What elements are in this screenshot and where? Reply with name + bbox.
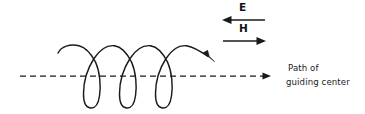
- guiding-center-caption: Path of guiding center: [286, 62, 365, 89]
- helix-loop-3: [156, 46, 187, 108]
- helix-arc-exit: [187, 46, 209, 57]
- magnetic-field-arrowhead: [257, 37, 267, 45]
- helix-loop-2: [120, 46, 151, 108]
- magnetic-field-arrow: [223, 37, 266, 45]
- caption-line-1: Path of: [286, 62, 365, 76]
- electric-field-arrowhead: [222, 16, 232, 24]
- electric-field-label: E: [239, 2, 246, 13]
- physics-diagram-canvas: [0, 0, 365, 114]
- helix-direction-arrowhead: [203, 50, 214, 61]
- guiding-center-arrowhead: [263, 73, 272, 80]
- magnetic-field-label: H: [239, 23, 248, 34]
- helix-arc-entry: [58, 45, 96, 62]
- helix-loop-1: [84, 46, 115, 108]
- caption-line-2: guiding center: [286, 76, 365, 90]
- guiding-center-axis: [20, 73, 271, 80]
